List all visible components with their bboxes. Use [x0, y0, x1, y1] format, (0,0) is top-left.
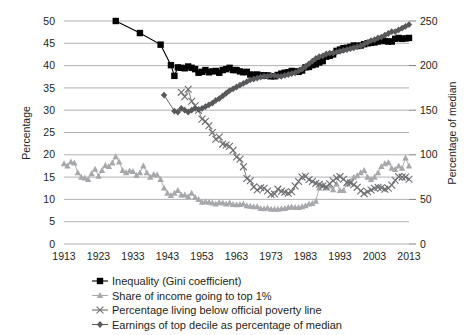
right-axis-tick-label: 0: [420, 238, 426, 250]
left-axis-tick-label: 25: [43, 126, 55, 138]
legend-label: Inequality (Gini coefficient): [112, 275, 241, 287]
legend-label: Earnings of top decile as percentage of …: [112, 319, 342, 331]
legend-item[interactable]: Share of income going to top 1%: [92, 290, 272, 302]
chart-figure: 05101520253035404550 050100150200250 191…: [0, 0, 467, 335]
data-point-square: [171, 73, 177, 79]
legend-label: Percentage living below official poverty…: [112, 304, 322, 316]
x-axis-tick-label: 1973: [259, 250, 283, 262]
left-axis-tick-label: 30: [43, 104, 55, 116]
left-axis-tick-label: 20: [43, 148, 55, 160]
left-axis-tick-label: 5: [49, 215, 55, 227]
right-axis-tick-label: 50: [420, 193, 432, 205]
legend-label: Share of income going to top 1%: [112, 290, 272, 302]
right-axis-tick-label: 100: [420, 148, 438, 160]
left-axis-tick-label: 50: [43, 15, 55, 27]
data-point-square: [406, 35, 412, 41]
left-axis-tick-label: 35: [43, 82, 55, 94]
x-axis-tick-label: 1993: [328, 250, 352, 262]
data-point-square: [168, 62, 174, 68]
x-axis-tick-label: 1963: [225, 250, 249, 262]
x-axis-tick-label: 2013: [397, 250, 421, 262]
legend-item[interactable]: Inequality (Gini coefficient): [92, 275, 241, 287]
left-axis-tick-label: 40: [43, 59, 55, 71]
legend-item[interactable]: Percentage living below official poverty…: [92, 304, 322, 316]
right-axis-tick-label: 150: [420, 104, 438, 116]
x-axis-tick-label: 1953: [190, 250, 214, 262]
data-point-square: [97, 278, 103, 284]
x-axis-tick-label: 1933: [121, 250, 145, 262]
data-point-square: [157, 41, 163, 47]
right-axis-tick-label: 200: [420, 59, 438, 71]
legend-item[interactable]: Earnings of top decile as percentage of …: [92, 319, 342, 331]
x-axis-tick-label: 1943: [156, 250, 180, 262]
chart-container: 05101520253035404550 050100150200250 191…: [0, 0, 467, 335]
data-point-square: [113, 18, 119, 24]
left-axis-tick-label: 15: [43, 171, 55, 183]
left-axis-tick-label: 0: [49, 238, 55, 250]
left-axis-tick-label: 45: [43, 37, 55, 49]
x-axis-tick-label: 1923: [87, 250, 111, 262]
x-axis-tick-labels: 1913192319331943195319631973198319932003…: [52, 250, 421, 262]
left-axis-title: Percentage: [20, 106, 32, 160]
x-axis-tick-label: 2003: [363, 250, 387, 262]
x-axis-tick-label: 1983: [294, 250, 318, 262]
left-axis-tick-label: 10: [43, 193, 55, 205]
x-axis-tick-label: 1913: [52, 250, 76, 262]
right-axis-tick-label: 250: [420, 15, 438, 27]
data-point-square: [137, 30, 143, 36]
right-axis-title: Percentage of median: [446, 81, 458, 184]
